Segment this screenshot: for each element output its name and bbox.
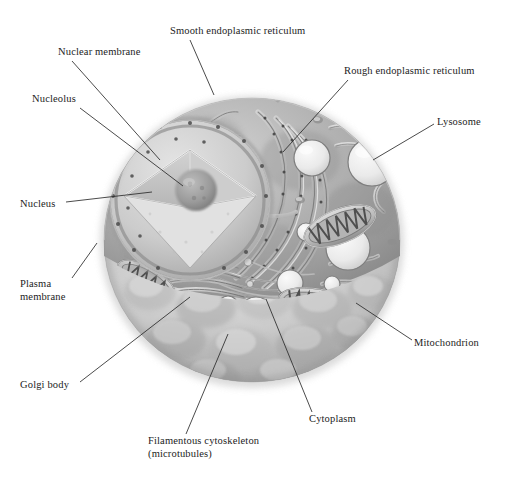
label-rough-er: Rough endoplasmic reticulum [344,65,475,78]
label-plasma-membrane-line2: membrane [20,291,66,304]
cell-diagram: Smooth endoplasmic reticulum Nuclear mem… [0,0,505,482]
leader-nuclear-membrane [72,61,160,160]
label-cytoskeleton-line2: (microtubules) [148,448,259,461]
label-smooth-er: Smooth endoplasmic reticulum [170,25,305,38]
label-golgi-body: Golgi body [20,379,69,392]
label-mitochondrion: Mitochondrion [414,337,479,350]
label-filamentous-cytoskeleton: Filamentous cytoskeleton (microtubules) [148,435,259,460]
label-nucleus: Nucleus [20,198,55,211]
leader-smooth-er [190,40,214,95]
leader-lysosome [373,124,434,160]
label-cytoskeleton-line1: Filamentous cytoskeleton [148,435,259,446]
nucleolus [175,169,217,211]
label-cytoplasm: Cytoplasm [309,413,356,426]
nucleus [106,116,274,284]
label-nucleolus: Nucleolus [32,93,76,106]
label-plasma-membrane-line1: Plasma [20,278,51,289]
label-nuclear-membrane: Nuclear membrane [58,46,141,59]
leader-plasma-membrane [72,243,97,278]
label-lysosome: Lysosome [437,116,481,129]
label-plasma-membrane: Plasma membrane [20,278,66,303]
